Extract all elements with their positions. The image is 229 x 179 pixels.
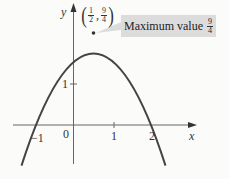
x-axis-arrow-icon	[188, 122, 197, 128]
y-axis-label: y	[61, 6, 66, 18]
x-axis-label: x	[189, 130, 194, 142]
y-axis-arrow-icon	[71, 3, 77, 12]
x-tick-label-neg1: −1	[31, 132, 44, 144]
x-tick-label-1: 1	[111, 130, 117, 142]
max-point-label: ( 12 , 94 )	[80, 3, 115, 27]
y-tick-label-1: 1	[62, 78, 68, 90]
max-value-callout: Maximum value 94	[121, 15, 216, 37]
x-tick-label-2: 2	[149, 130, 155, 142]
parabola-curve	[22, 53, 166, 165]
origin-label: 0	[63, 128, 69, 140]
max-point-marker	[92, 31, 96, 35]
